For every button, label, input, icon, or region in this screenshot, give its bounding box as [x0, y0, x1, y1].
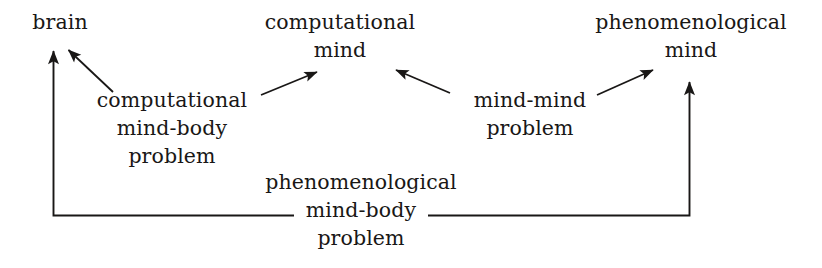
node-mind-mind-problem: mind-mind problem	[440, 86, 620, 142]
node-phenomenological-mind-body-problem-line-2: mind-body	[250, 196, 472, 224]
mind-body-problems-diagram: brain computational mind phenomenologica…	[0, 0, 822, 268]
node-computational-mind-body-problem-line-1: computational	[74, 86, 270, 114]
node-mind-mind-problem-line-1: mind-mind	[440, 86, 620, 114]
node-phenomenological-mind-line-2: mind	[560, 36, 822, 64]
node-computational-mind-line-2: mind	[242, 36, 438, 64]
node-brain-line-1: brain	[14, 8, 106, 36]
node-phenomenological-mind-body-problem: phenomenological mind-body problem	[250, 168, 472, 252]
node-mind-mind-problem-line-2: problem	[440, 114, 620, 142]
node-computational-mind-body-problem-line-3: problem	[74, 142, 270, 170]
node-computational-mind-line-1: computational	[242, 8, 438, 36]
node-computational-mind: computational mind	[242, 8, 438, 64]
node-brain: brain	[14, 8, 106, 36]
node-phenomenological-mind-body-problem-line-1: phenomenological	[250, 168, 472, 196]
node-phenomenological-mind-body-problem-line-3: problem	[250, 224, 472, 252]
node-computational-mind-body-problem: computational mind-body problem	[74, 86, 270, 170]
node-phenomenological-mind: phenomenological mind	[560, 8, 822, 64]
node-computational-mind-body-problem-line-2: mind-body	[74, 114, 270, 142]
node-phenomenological-mind-line-1: phenomenological	[560, 8, 822, 36]
